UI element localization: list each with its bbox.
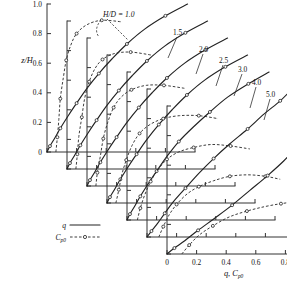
data-point-q-hd-2-9 xyxy=(165,76,168,79)
y-tick-label-0.8: 0.8 xyxy=(33,29,43,38)
panel-labels-group: H/D = 1.01.52.02.53.04.05.0 xyxy=(102,10,276,120)
data-point-Cp0-hd-5-7 xyxy=(279,202,282,205)
curve-q-hd-5 xyxy=(167,106,287,254)
panel-label-1.5: 1.5 xyxy=(173,28,183,37)
data-point-q-hd-3-7 xyxy=(177,140,180,143)
legend-marker-cp0 xyxy=(83,235,86,238)
data-point-q-hd-3-9 xyxy=(208,110,211,113)
data-point-q-hd-3-11 xyxy=(247,82,250,85)
data-point-Cp0-hd-1.5-9 xyxy=(129,51,132,54)
data-point-Cp0-hd-4-3 xyxy=(175,203,178,206)
chart-axes-group xyxy=(47,4,287,254)
chart-figure: 1.00.80.60.40.20z/H00.20.40.60.81.0q, Cp… xyxy=(0,0,287,290)
data-point-q-hd-4-7 xyxy=(212,157,215,160)
x-tick-label-0.2: 0.2 xyxy=(192,258,202,267)
data-point-Cp0-hd-5-5 xyxy=(245,210,248,213)
data-point-q-hd-4-3 xyxy=(163,212,166,215)
data-point-q-hd-2-1 xyxy=(88,179,91,182)
panel-curves-2 xyxy=(87,38,228,186)
panel-curves-5 xyxy=(167,106,287,254)
data-point-Cp0-hd-1-7 xyxy=(75,32,78,35)
x-tick-labels: 00.20.40.60.81.0 xyxy=(165,258,287,267)
panel-label-leader-4 xyxy=(250,87,256,108)
data-point-q-hd-3-1 xyxy=(128,213,131,216)
curve-q-hd-2 xyxy=(87,38,228,186)
data-point-Cp0-hd-1.5-3 xyxy=(80,116,83,119)
data-point-q-hd-5-1 xyxy=(173,247,176,250)
panel-label-2: 2.0 xyxy=(199,45,209,54)
data-point-Cp0-hd-1.5-5 xyxy=(88,80,91,83)
data-point-q-hd-1-5 xyxy=(75,102,78,105)
data-point-q-hd-1.5-9 xyxy=(145,59,148,62)
y-tick-label-0.6: 0.6 xyxy=(33,59,43,68)
data-point-q-hd-1-7 xyxy=(97,72,100,75)
y-axis-title: z/H xyxy=(20,56,34,65)
data-point-Cp0-hd-2-3 xyxy=(102,137,105,140)
panel-curves-3 xyxy=(127,72,269,220)
x-tick-label-0: 0 xyxy=(165,258,169,267)
y-tick-label-0.2: 0.2 xyxy=(33,118,43,127)
data-point-Cp0-hd-3-7 xyxy=(192,146,195,149)
panel-axis-4 xyxy=(147,89,287,237)
data-point-q-hd-2.5-11 xyxy=(224,65,227,68)
data-point-Cp0-hd-1.5-7 xyxy=(101,58,104,61)
data-point-q-hd-2-7 xyxy=(137,106,140,109)
legend-label-q: q xyxy=(62,221,66,230)
data-point-q-hd-1.5-5 xyxy=(95,119,98,122)
data-point-Cp0-hd-4-5 xyxy=(197,185,200,188)
panel-label-4: 4.0 xyxy=(252,78,262,87)
panel-label-5: 5.0 xyxy=(266,90,276,99)
data-point-Cp0-hd-1-3 xyxy=(59,97,62,100)
x-tick-label-0.4: 0.4 xyxy=(222,258,232,267)
legend-label-cp0: Cp0 xyxy=(56,233,67,243)
y-tick-label-1.0: 1.0 xyxy=(33,0,43,9)
curve-Cp0-hd-3 xyxy=(137,144,249,220)
panel-curves-2.5 xyxy=(107,55,248,203)
panel-axis-2.5 xyxy=(107,55,255,203)
data-point-Cp0-hd-1-1 xyxy=(56,136,59,139)
data-point-q-hd-1.5-7 xyxy=(117,89,120,92)
data-point-Cp0-hd-2.5-9 xyxy=(197,114,200,117)
panel-label-1: H/D = 1.0 xyxy=(102,10,135,19)
curve-Cp0-hd-2 xyxy=(96,85,185,186)
data-point-Cp0-hd-3-9 xyxy=(229,145,232,148)
chart-svg: 1.00.80.60.40.20z/H00.20.40.60.81.0q, Cp… xyxy=(0,0,287,290)
curve-q-hd-2.5 xyxy=(107,55,248,203)
data-point-q-hd-2.5-5 xyxy=(135,153,138,156)
data-point-q-hd-4-5 xyxy=(184,187,187,190)
curve-q-hd-4 xyxy=(147,89,287,237)
panel-label-leader-2 xyxy=(196,54,203,74)
data-point-q-hd-2.5-9 xyxy=(185,93,188,96)
data-point-Cp0-hd-2-9 xyxy=(162,84,165,87)
panel-curves-4 xyxy=(147,89,287,237)
data-point-Cp0-hd-5-3 xyxy=(211,224,214,227)
panel-label-leader-3 xyxy=(234,74,242,96)
data-point-Cp0-hd-3-1 xyxy=(139,207,142,210)
y-tick-label-0: 0 xyxy=(38,148,42,157)
data-point-q-hd-4-1 xyxy=(150,230,153,233)
data-point-q-hd-1.5-11 xyxy=(184,31,187,34)
data-point-Cp0-hd-1-5 xyxy=(65,59,68,62)
chart-legend: qCp0 xyxy=(56,221,100,243)
x-tick-label-0.6: 0.6 xyxy=(251,258,261,267)
data-point-q-hd-3-3 xyxy=(139,195,142,198)
data-point-q-hd-1-1 xyxy=(48,145,51,148)
data-point-Cp0-hd-5-1 xyxy=(188,244,191,247)
data-point-Cp0-hd-4-1 xyxy=(162,225,165,228)
panel-axis-5 xyxy=(167,106,287,254)
x-axis-title: q, Cp0 xyxy=(224,269,244,279)
y-tick-labels: 1.00.80.60.40.20 xyxy=(33,0,43,157)
data-point-Cp0-hd-3-5 xyxy=(165,158,168,161)
data-point-Cp0-hd-2.5-1 xyxy=(117,188,120,191)
data-point-q-hd-4-9 xyxy=(246,127,249,130)
data-point-Cp0-hd-2-5 xyxy=(112,106,115,109)
data-point-Cp0-hd-4-7 xyxy=(228,175,231,178)
data-point-q-hd-2-5 xyxy=(115,136,118,139)
data-point-q-hd-1-3 xyxy=(59,127,62,130)
data-point-Cp0-hd-1.5-1 xyxy=(76,153,79,156)
data-point-Cp0-hd-2-7 xyxy=(130,88,133,91)
data-point-Cp0-hd-3-3 xyxy=(149,180,152,183)
panel-label-leader-curve-1 xyxy=(97,20,101,37)
data-point-q-hd-2.5-7 xyxy=(157,123,160,126)
data-point-q-hd-1.5-3 xyxy=(79,144,82,147)
